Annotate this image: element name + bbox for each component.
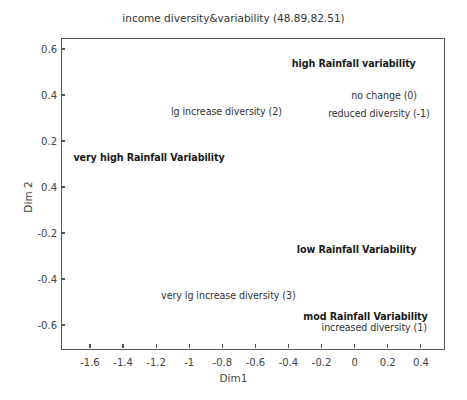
y-tick-mark xyxy=(61,94,65,95)
y-tick-label: -0.6 xyxy=(37,320,57,331)
x-tick-mark xyxy=(255,344,256,348)
y-tick-label: 0.6 xyxy=(41,44,57,55)
x-tick-mark xyxy=(321,344,322,348)
rainfall-category-label: mod Rainfall Variability xyxy=(303,310,427,321)
x-tick-label: -1 xyxy=(184,357,194,368)
y-tick-mark xyxy=(61,140,65,141)
rainfall-category-label: high Rainfall variability xyxy=(292,57,416,68)
y-tick-mark xyxy=(61,324,65,325)
rainfall-category-label: low Rainfall Variability xyxy=(297,244,417,255)
y-tick-mark xyxy=(61,48,65,49)
diversity-category-label: no change (0) xyxy=(351,90,417,101)
x-tick-mark xyxy=(122,344,123,348)
diversity-category-label: lg increase diversity (2) xyxy=(171,106,282,117)
x-tick-label: -0.4 xyxy=(279,357,299,368)
x-tick-label: -0.8 xyxy=(213,357,233,368)
y-tick-mark xyxy=(61,278,65,279)
diversity-category-label: increased diversity (1) xyxy=(322,322,427,333)
x-tick-label: -1.2 xyxy=(146,357,166,368)
rainfall-category-label: very high Rainfall Variability xyxy=(73,152,224,163)
x-tick-mark xyxy=(420,344,421,348)
x-tick-mark xyxy=(354,344,355,348)
x-tick-mark xyxy=(189,344,190,348)
x-tick-label: 0.2 xyxy=(380,357,396,368)
x-tick-label: 0.4 xyxy=(413,357,429,368)
y-tick-label: 0.2 xyxy=(41,136,57,147)
y-tick-label: -0.2 xyxy=(37,228,57,239)
plot-area xyxy=(61,38,445,350)
x-tick-label: -0.6 xyxy=(246,357,266,368)
x-tick-mark xyxy=(387,344,388,348)
y-tick-mark xyxy=(61,232,65,233)
x-tick-label: -0.2 xyxy=(312,357,332,368)
y-axis-label: Dim 2 xyxy=(22,181,34,212)
x-tick-label: -1.4 xyxy=(113,357,133,368)
x-tick-label: 0 xyxy=(351,357,357,368)
correspondence-plot: income diversity&variability (48.89,82.5… xyxy=(0,0,467,400)
y-tick-label: 0.4 xyxy=(41,182,57,193)
x-tick-mark xyxy=(89,344,90,348)
y-tick-label: 0.4 xyxy=(41,90,57,101)
x-tick-mark xyxy=(288,344,289,348)
x-axis-label: Dim1 xyxy=(0,372,467,384)
y-tick-label: -0.4 xyxy=(37,274,57,285)
chart-title: income diversity&variability (48.89,82.5… xyxy=(0,12,467,24)
diversity-category-label: very lg increase diversity (3) xyxy=(161,290,296,301)
x-tick-mark xyxy=(222,344,223,348)
x-tick-mark xyxy=(156,344,157,348)
diversity-category-label: reduced diversity (-1) xyxy=(328,108,429,119)
y-tick-mark xyxy=(61,186,65,187)
x-tick-label: -1.6 xyxy=(80,357,100,368)
